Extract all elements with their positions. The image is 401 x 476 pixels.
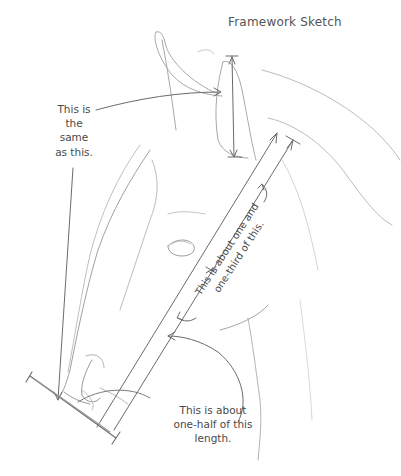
face-note-leader xyxy=(54,168,73,400)
eye-outline xyxy=(168,212,205,256)
ear-same-note: This is the same as this. xyxy=(44,102,104,159)
left-ear-outline xyxy=(155,32,222,130)
muzzle-outline xyxy=(64,355,128,410)
muzzle-half-note: This is about one-half of this length. xyxy=(148,403,278,446)
ear-note-line: same xyxy=(44,130,104,144)
ear-note-line: the xyxy=(44,116,104,130)
muzzle-base-line xyxy=(26,372,120,444)
muzzle-note-line: one-half of this xyxy=(148,417,278,431)
muzzle-note-line: This is about xyxy=(148,403,278,417)
ear-note-leader xyxy=(96,88,221,110)
page-title: Framework Sketch xyxy=(228,14,342,30)
muzzle-arc xyxy=(78,390,150,402)
muzzle-note-line: length. xyxy=(148,431,278,445)
ear-note-line: This is xyxy=(44,102,104,116)
ear-measure-line xyxy=(226,56,242,157)
sketch-canvas: Framework Sketch This is the same as thi… xyxy=(0,0,401,476)
face-front-outline xyxy=(58,145,157,398)
ear-note-line: as this. xyxy=(44,145,104,159)
right-ear-outline xyxy=(198,50,256,160)
mane-neck-outline xyxy=(262,70,400,420)
